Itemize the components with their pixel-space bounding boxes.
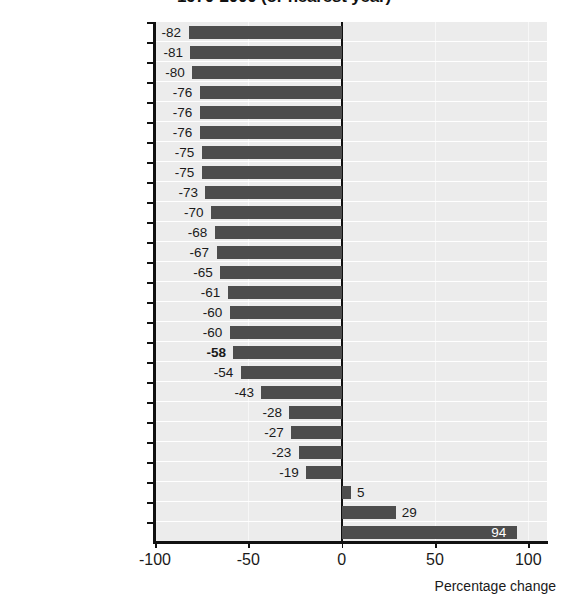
bar <box>306 466 341 479</box>
y-axis-tick <box>147 362 154 364</box>
y-axis-tick <box>147 402 154 404</box>
bar <box>342 506 396 519</box>
value-label: -43 <box>234 386 254 399</box>
bar <box>202 166 342 179</box>
bar <box>200 86 342 99</box>
y-axis-tick <box>147 22 154 24</box>
bar <box>299 446 342 459</box>
value-label: -81 <box>163 46 183 59</box>
y-axis-tick <box>147 322 154 324</box>
y-axis-tick <box>147 242 154 244</box>
y-axis-tick <box>147 202 154 204</box>
x-axis-title: Percentage change <box>0 578 556 594</box>
y-axis-tick <box>147 382 154 384</box>
bar <box>230 306 342 319</box>
value-label: -23 <box>272 446 292 459</box>
x-axis-tick <box>155 541 157 548</box>
x-axis-tick <box>435 541 437 548</box>
value-label: 94 <box>491 526 506 539</box>
y-axis-tick <box>147 42 154 44</box>
y-axis-tick <box>147 102 154 104</box>
bar <box>192 66 341 79</box>
zero-axis-line <box>341 22 344 542</box>
x-axis-tick <box>528 541 530 548</box>
x-axis-tick <box>342 541 344 548</box>
y-axis-tick <box>147 462 154 464</box>
y-axis-tick <box>147 262 154 264</box>
bar <box>241 366 342 379</box>
y-axis-tick <box>147 422 154 424</box>
x-axis-tick-label: -100 <box>115 551 195 569</box>
x-axis-tick-label: -50 <box>208 551 288 569</box>
row-band <box>155 462 547 482</box>
chart-title: 1970-2000 (or nearest year) <box>0 0 568 7</box>
value-label: -67 <box>190 246 210 259</box>
row-band <box>155 482 547 502</box>
x-axis-tick-label: 50 <box>395 551 475 569</box>
value-label: -19 <box>279 466 299 479</box>
y-axis-tick <box>147 122 154 124</box>
bar <box>230 326 342 339</box>
y-axis-tick <box>147 142 154 144</box>
value-label: -28 <box>262 406 282 419</box>
plot-area <box>155 22 547 542</box>
value-label: 29 <box>402 506 417 519</box>
y-axis-tick <box>147 482 154 484</box>
y-axis-tick <box>147 222 154 224</box>
value-label: -68 <box>188 226 208 239</box>
value-label: -73 <box>178 186 198 199</box>
bar-chart-figure: 1970-2000 (or nearest year) Percentage c… <box>0 0 568 607</box>
y-axis-tick <box>147 522 154 524</box>
bar <box>220 266 341 279</box>
y-axis-tick <box>147 162 154 164</box>
y-axis-tick <box>147 82 154 84</box>
y-axis-tick <box>147 282 154 284</box>
y-axis-tick <box>147 442 154 444</box>
bar <box>189 26 342 39</box>
value-label: -80 <box>165 66 185 79</box>
bar <box>205 186 341 199</box>
y-axis-tick <box>147 502 154 504</box>
value-label: -75 <box>175 146 195 159</box>
row-band <box>155 402 547 422</box>
value-label: -60 <box>203 306 223 319</box>
row-band <box>155 442 547 462</box>
bar <box>342 486 351 499</box>
y-axis-tick <box>147 182 154 184</box>
value-label: -82 <box>162 26 182 39</box>
row-band <box>155 382 547 402</box>
bar <box>211 206 342 219</box>
row-band <box>155 262 547 282</box>
bar <box>215 226 342 239</box>
value-label: -65 <box>193 266 213 279</box>
value-label: -76 <box>173 126 193 139</box>
x-axis-tick-label: 100 <box>488 551 568 569</box>
row-band <box>155 242 547 262</box>
bar <box>289 406 341 419</box>
value-label: -70 <box>184 206 204 219</box>
bar <box>228 286 342 299</box>
bar <box>200 106 342 119</box>
bar <box>291 426 341 439</box>
value-label: -76 <box>173 86 193 99</box>
value-label: -75 <box>175 166 195 179</box>
value-label: 5 <box>357 486 365 499</box>
bar <box>233 346 341 359</box>
row-band <box>155 422 547 442</box>
x-axis-line <box>155 541 548 544</box>
x-axis-tick-label: 0 <box>302 551 382 569</box>
value-label: -54 <box>214 366 234 379</box>
x-axis-tick <box>248 541 250 548</box>
y-axis-tick <box>147 342 154 344</box>
value-label: -76 <box>173 106 193 119</box>
value-label: -58 <box>206 346 226 359</box>
y-axis-tick <box>147 302 154 304</box>
value-label: -60 <box>203 326 223 339</box>
y-axis-tick <box>147 62 154 64</box>
bar <box>202 146 342 159</box>
value-label: -61 <box>201 286 221 299</box>
bar <box>217 246 342 259</box>
bar <box>200 126 342 139</box>
bar <box>190 46 341 59</box>
value-label: -27 <box>264 426 284 439</box>
